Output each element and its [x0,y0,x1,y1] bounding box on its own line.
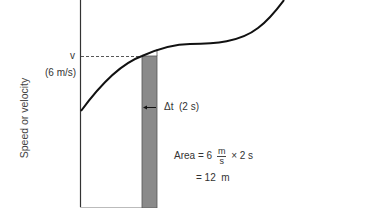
v-label: v [70,50,75,61]
y-axis-label: Speed or velocity [18,78,30,159]
area-prefix: Area = 6 [174,150,212,161]
area-formula: Area = 6 m s × 2 s [174,147,253,166]
delta-t-label: Δt (2 s) [164,101,199,112]
area-suffix: × 2 s [231,150,253,161]
unit-fraction: m s [217,147,227,166]
unit-denominator: s [217,157,227,166]
v-value-label: (6 m/s) [45,67,76,78]
speed-curve [81,0,284,111]
area-strip [142,56,157,208]
area-result: = 12 m [196,172,230,183]
